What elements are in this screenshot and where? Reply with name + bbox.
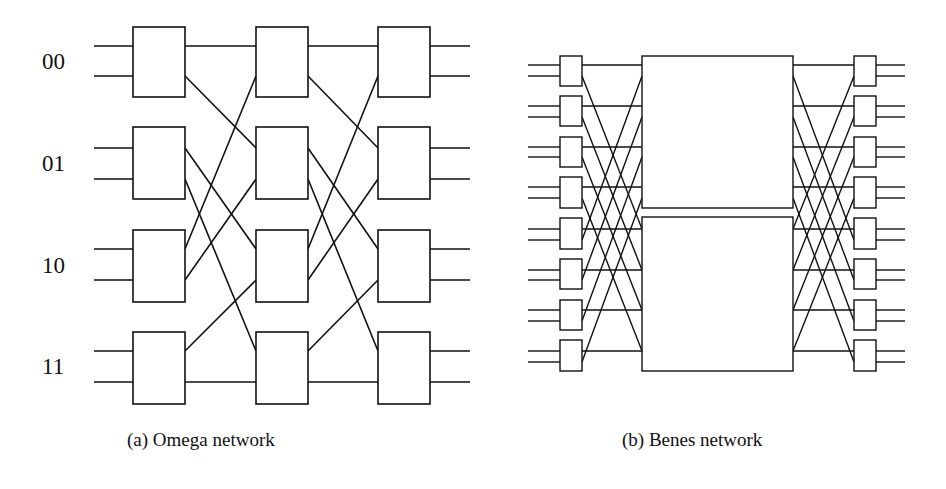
benes-output-lines bbox=[876, 65, 905, 362]
omega-caption: (a) Omega network bbox=[127, 430, 275, 449]
omega-output-lines bbox=[430, 46, 470, 382]
network-diagrams bbox=[0, 0, 946, 489]
benes-lower-subnetwork bbox=[642, 217, 793, 371]
benes-right-switches bbox=[854, 56, 876, 371]
benes-upper-subnetwork bbox=[642, 56, 793, 208]
omega-network bbox=[94, 27, 470, 404]
benes-right-links bbox=[793, 65, 854, 362]
omega-switches bbox=[133, 27, 430, 404]
benes-caption: (b) Benes network bbox=[622, 430, 762, 449]
benes-left-links bbox=[582, 65, 642, 362]
benes-left-switches bbox=[560, 56, 582, 371]
benes-input-lines bbox=[528, 65, 560, 362]
omega-shuffle-links-1 bbox=[185, 46, 256, 382]
omega-input-lines bbox=[94, 46, 133, 382]
omega-shuffle-links-2 bbox=[308, 46, 378, 382]
benes-network bbox=[528, 56, 905, 371]
